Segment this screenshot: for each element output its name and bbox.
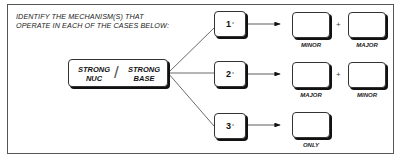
label-minor: MINOR bbox=[291, 42, 331, 48]
degree-number: 2 bbox=[226, 69, 231, 79]
degree-number: 3 bbox=[226, 121, 231, 131]
label-minor: MINOR bbox=[347, 92, 387, 98]
tertiary-substrate-box: 3° bbox=[214, 113, 246, 139]
label-major: MAJOR bbox=[291, 92, 331, 98]
label-major: MAJOR bbox=[347, 42, 387, 48]
answer-box-2-major[interactable] bbox=[292, 62, 330, 88]
plus-sign: + bbox=[336, 20, 341, 29]
degree-symbol: ° bbox=[232, 123, 234, 129]
degree-symbol: ° bbox=[232, 71, 234, 77]
degree-symbol: ° bbox=[232, 21, 234, 27]
answer-box-3-only[interactable] bbox=[292, 112, 330, 138]
slash-divider: / bbox=[114, 63, 119, 83]
plus-sign: + bbox=[336, 70, 341, 79]
answer-box-1-minor[interactable] bbox=[292, 12, 330, 38]
secondary-substrate-box: 2° bbox=[214, 61, 246, 87]
primary-substrate-box: 1° bbox=[214, 11, 246, 37]
reagent-box: STRONG NUC / STRONG BASE bbox=[68, 59, 168, 87]
label-only: ONLY bbox=[291, 142, 331, 148]
strong-nuc-label: STRONG NUC bbox=[77, 65, 111, 83]
degree-number: 1 bbox=[226, 19, 231, 29]
answer-box-2-minor[interactable] bbox=[348, 62, 386, 88]
answer-box-1-major[interactable] bbox=[348, 12, 386, 38]
strong-base-label: STRONG BASE bbox=[125, 65, 163, 83]
connector-lines bbox=[0, 0, 405, 161]
